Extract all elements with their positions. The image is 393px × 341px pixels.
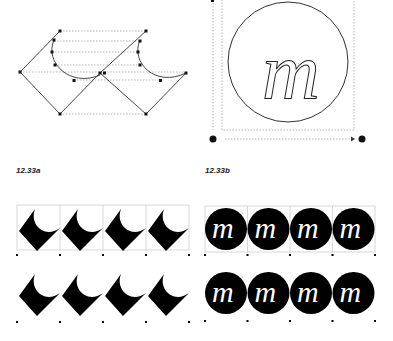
pattern-a-rows bbox=[16, 205, 190, 323]
tile-marker bbox=[59, 321, 61, 323]
tile-marker bbox=[204, 320, 206, 322]
m-glyph: m bbox=[255, 275, 277, 308]
anchor-point bbox=[210, 136, 217, 143]
anchor-point bbox=[211, 0, 214, 2]
crescent-diamond-tile bbox=[148, 274, 189, 316]
m-glyph: m bbox=[340, 211, 362, 244]
crescent-diamond-tile bbox=[19, 274, 60, 316]
figure-label-b: 12.33b bbox=[205, 166, 230, 175]
figure-canvas: m mmmmmmmm bbox=[0, 0, 393, 341]
figure-b-construction: m bbox=[210, 0, 366, 143]
bezier-curve bbox=[52, 40, 100, 78]
tile-marker bbox=[204, 254, 206, 256]
tile-marker bbox=[332, 254, 334, 256]
figure-label-a: 12.33a bbox=[16, 166, 40, 175]
outlined-m-glyph: m bbox=[262, 27, 320, 115]
tile-marker bbox=[332, 320, 334, 322]
m-glyph: m bbox=[212, 211, 234, 244]
tile-marker bbox=[374, 320, 376, 322]
m-glyph: m bbox=[255, 211, 277, 244]
control-points bbox=[19, 30, 188, 116]
tile-marker bbox=[289, 320, 291, 322]
tile-marker bbox=[16, 321, 18, 323]
tile-marker bbox=[188, 321, 190, 323]
tile-marker bbox=[102, 254, 104, 256]
crescent-diamond-tile bbox=[148, 209, 189, 251]
tile-marker bbox=[247, 320, 249, 322]
tile-marker bbox=[16, 254, 18, 256]
figure-a-construction bbox=[19, 30, 188, 116]
tile-marker bbox=[145, 321, 147, 323]
diamond-outline bbox=[20, 31, 146, 114]
tile-marker bbox=[188, 254, 190, 256]
tile-marker bbox=[289, 254, 291, 256]
crescent-diamond-tile bbox=[62, 209, 103, 251]
crescent-diamond-tile bbox=[62, 274, 103, 316]
tile-marker bbox=[374, 254, 376, 256]
m-glyph: m bbox=[297, 211, 319, 244]
crescent-diamond-tile bbox=[105, 274, 146, 316]
tile-marker bbox=[145, 254, 147, 256]
arrowhead-icon bbox=[351, 137, 355, 142]
crescent-diamond-tile bbox=[105, 209, 146, 251]
m-glyph: m bbox=[212, 275, 234, 308]
m-glyph: m bbox=[340, 275, 362, 308]
anchor-point bbox=[359, 136, 366, 143]
pattern-b-rows: mmmmmmmm bbox=[204, 206, 376, 322]
crescent-diamond-tile bbox=[19, 209, 60, 251]
tile-marker bbox=[247, 254, 249, 256]
tile-marker bbox=[102, 321, 104, 323]
tile-defect-dot bbox=[125, 296, 131, 302]
diamond-outline bbox=[100, 73, 186, 114]
m-glyph: m bbox=[297, 275, 319, 308]
tile-marker bbox=[59, 254, 61, 256]
